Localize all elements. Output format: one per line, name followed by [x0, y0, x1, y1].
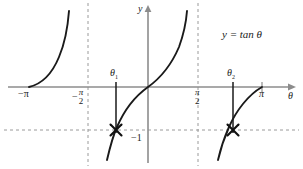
theta1-subscript: 1 [115, 74, 118, 80]
tick-label-pi: π [259, 89, 264, 99]
neg-half-pi-fraction: π2 [78, 88, 85, 106]
theta2-subscript: 2 [232, 74, 235, 80]
tan-curve-branch-left [29, 11, 69, 87]
tick-label-neg-half-pi: −π2 [72, 88, 84, 106]
equation-label: y = tan θ [222, 29, 262, 40]
tan-curve-branch-center [107, 11, 187, 160]
theta2-label: θ2 [227, 68, 235, 80]
half-pi-fraction: π2 [194, 88, 201, 106]
theta1-label: θ1 [110, 68, 118, 80]
neg-half-pi-denominator: 2 [78, 97, 85, 106]
tan-curve-branch-right [218, 87, 262, 160]
x-axis-label: θ [288, 91, 293, 101]
y-value-label-minus-one: −1 [131, 133, 142, 143]
tick-label-neg-pi: −π [18, 89, 29, 99]
tangent-plot-svg [0, 0, 303, 169]
tangent-function-figure: −π −π2 π2 π θ y θ1 θ2 −1 y = tan θ [0, 0, 303, 169]
tick-label-half-pi: π2 [194, 88, 201, 106]
half-pi-denominator: 2 [194, 97, 201, 106]
y-axis-label: y [138, 4, 142, 14]
y-axis-arrowhead [145, 5, 152, 12]
